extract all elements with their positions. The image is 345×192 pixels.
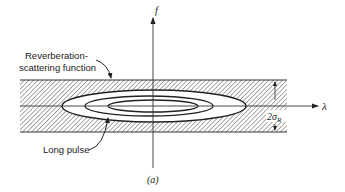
reverberation-label-line2: scattering function xyxy=(19,62,96,73)
reverberation-annotation: Reverberation- scattering function xyxy=(19,50,111,78)
lambda-axis-label: λ xyxy=(321,100,327,112)
figure-caption: (a) xyxy=(147,174,159,186)
ambiguity-diagram: λ f 2σR Reverberation- scattering functi… xyxy=(0,0,345,192)
f-axis-label: f xyxy=(155,5,159,16)
long-pulse-label: Long pulse xyxy=(43,144,89,155)
reverberation-label-line1: Reverberation- xyxy=(25,50,88,61)
